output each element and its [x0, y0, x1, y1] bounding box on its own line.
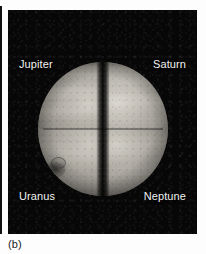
quadrant-saturn — [103, 62, 168, 129]
vertical-seam — [97, 62, 110, 196]
planet-label-saturn: Saturn — [153, 58, 186, 70]
planet-label-jupiter: Jupiter — [19, 58, 53, 70]
sphere-body — [38, 62, 168, 196]
composite-sphere — [38, 62, 168, 196]
quadrant-jupiter-texture — [38, 62, 103, 129]
quadrant-uranus — [38, 129, 103, 196]
quadrant-saturn-texture — [103, 62, 168, 129]
quadrant-uranus-texture — [38, 129, 103, 196]
planet-composite-image: Jupiter Saturn Uranus Neptune — [8, 10, 197, 234]
planet-label-neptune: Neptune — [144, 190, 186, 202]
adjacent-panel-edge — [0, 6, 2, 234]
planet-label-uranus: Uranus — [19, 190, 55, 202]
figure-panel-b: Jupiter Saturn Uranus Neptune (b) — [0, 0, 206, 254]
quadrant-neptune — [103, 129, 168, 196]
quadrant-neptune-texture — [103, 129, 168, 196]
figure-caption: (b) — [8, 238, 22, 251]
quadrant-jupiter — [38, 62, 103, 129]
